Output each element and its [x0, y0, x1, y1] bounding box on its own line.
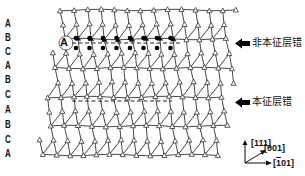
inserted-layer-label: A: [60, 37, 68, 48]
layer-label: A: [5, 61, 11, 71]
layer-label: A: [5, 105, 11, 115]
layer-label: A: [5, 19, 11, 29]
crystal-lattice: [0, 0, 305, 176]
axis-label-001: [001]: [264, 143, 285, 153]
layer-label: B: [5, 120, 11, 130]
axis-rest: 01]: [281, 158, 294, 168]
layer-label: B: [5, 33, 11, 43]
layer-label: A: [5, 149, 11, 159]
axis-label-101: [101]: [273, 158, 294, 168]
intrinsic-fault-arrow-icon: [235, 98, 250, 108]
extrinsic-fault-arrow-icon: [235, 39, 250, 49]
layer-label: B: [5, 75, 11, 85]
extrinsic-fault-label: 非本征层错: [252, 37, 302, 49]
intrinsic-fault-label: 本征层错: [252, 96, 292, 108]
layer-label: C: [5, 90, 11, 100]
axis-101-arrow-icon: [266, 161, 272, 166]
axis-111-arrow-icon: [243, 140, 248, 145]
layer-label: C: [5, 47, 11, 57]
layer-label: C: [5, 135, 11, 145]
stacking-fault-diagram: ABCABCABCA A 非本征层错 本征层错 [111] [001] [101…: [0, 0, 305, 176]
